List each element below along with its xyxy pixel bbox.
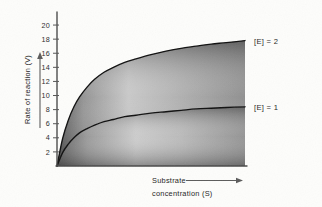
y-axis-tick-label: 14 <box>42 63 50 72</box>
y-axis-title: Rate of reaction (V) <box>23 55 32 124</box>
enzyme-kinetics-figure: 2468101214161820 Rate of reaction (V) Su… <box>0 0 322 207</box>
y-axis-tick-label: 12 <box>42 77 50 86</box>
y-axis-tick-label: 4 <box>46 133 50 142</box>
annotation-e1: [E] = 1 <box>254 103 278 112</box>
y-axis-tick-label: 8 <box>46 105 50 114</box>
y-axis-tick-label: 10 <box>42 91 50 100</box>
y-axis-tick-label: 18 <box>42 35 50 44</box>
y-axis-tick-label: 6 <box>46 119 50 128</box>
chart-svg: 2468101214161820 Rate of reaction (V) Su… <box>0 0 322 207</box>
y-axis-tick-label: 2 <box>46 148 50 157</box>
y-axis-tick-label: 16 <box>42 49 50 58</box>
y-axis-tick-label: 20 <box>42 21 50 30</box>
x-axis-title-line2: concentration (S) <box>152 189 213 198</box>
annotation-e2: [E] = 2 <box>254 37 278 46</box>
x-axis-title-line1: Substrate <box>152 176 186 185</box>
